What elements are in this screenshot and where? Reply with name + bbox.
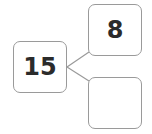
part-top-value: 8 bbox=[107, 16, 124, 44]
connector-to-bottom-part bbox=[67, 67, 89, 81]
part-box-top: 8 bbox=[88, 4, 142, 56]
part-box-bottom-empty[interactable] bbox=[88, 77, 142, 129]
whole-number-box: 15 bbox=[13, 41, 67, 93]
whole-number-value: 15 bbox=[23, 53, 56, 81]
connector-to-top-part bbox=[67, 52, 89, 67]
